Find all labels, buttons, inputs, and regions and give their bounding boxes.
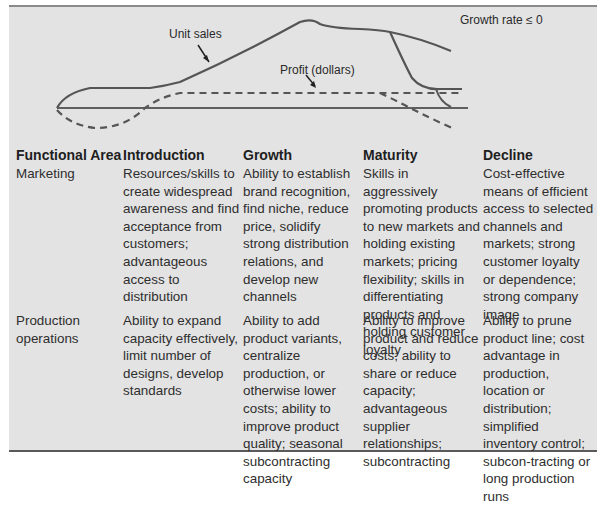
header-growth: Growth xyxy=(243,147,292,163)
row-production-introduction: Ability to expand capacity effectively, … xyxy=(123,312,241,400)
row-marketing-decline: Cost-effective means of efficient access… xyxy=(483,165,595,323)
row-marketing-introduction: Resources/skills to create widespread aw… xyxy=(123,165,241,306)
unit-sales-label: Unit sales xyxy=(169,27,222,41)
row-production-maturity: Ability to improve product and reduce co… xyxy=(363,312,481,470)
arrow-icon xyxy=(203,55,209,62)
profit-label: Profit (dollars) xyxy=(280,63,355,77)
header-introduction: Introduction xyxy=(123,147,205,163)
row-production-growth: Ability to add product variants, central… xyxy=(243,312,361,488)
row-marketing-area: Marketing xyxy=(16,165,116,183)
header-decline: Decline xyxy=(483,147,533,163)
header-functional-area: Functional Area xyxy=(16,147,121,163)
row-production-area: Production operations xyxy=(16,312,106,347)
growth-rate-label: Growth rate ≤ 0 xyxy=(460,13,543,27)
header-maturity: Maturity xyxy=(363,147,417,163)
profit-curve xyxy=(57,93,462,128)
row-production-decline: Ability to prune product line; cost adva… xyxy=(483,312,595,505)
row-marketing-growth: Ability to establish brand recognition, … xyxy=(243,165,361,306)
unit-sales-decline-branch-2 xyxy=(436,89,451,107)
